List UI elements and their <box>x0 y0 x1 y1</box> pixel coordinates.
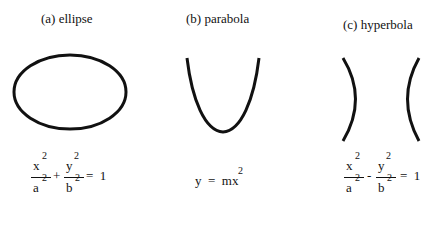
parabola-curve <box>187 58 259 132</box>
ellipse-operator: + <box>53 168 60 184</box>
ellipse-term1-denominator: a <box>33 180 39 196</box>
hyperbola-left-branch <box>343 58 356 141</box>
ellipse-term2-denominator: b <box>66 180 73 196</box>
hyperbola-term1-numerator: x <box>346 158 353 174</box>
ellipse-fraction-bar-2 <box>64 177 84 178</box>
ellipse-term2-numerator: y <box>66 158 73 174</box>
parabola-lhs: y = mx <box>195 173 238 189</box>
hyperbola-term2-den-exponent: 2 <box>387 172 392 183</box>
hyperbola-term2-denominator: b <box>378 180 385 196</box>
hyperbola-term2-num-exponent: 2 <box>386 150 391 161</box>
hyperbola-operator: - <box>367 168 371 184</box>
ellipse-term2-num-exponent: 2 <box>74 150 79 161</box>
ellipse-equation: x 2 a 2 + y 2 b 2 = 1 <box>30 150 150 200</box>
ellipse-rhs: = 1 <box>86 168 106 184</box>
hyperbola-term2-numerator: y <box>378 158 385 174</box>
hyperbola-fraction-bar-2 <box>376 177 396 178</box>
hyperbola-fraction-bar-1 <box>344 177 364 178</box>
ellipse-term1-num-exponent: 2 <box>42 150 47 161</box>
hyperbola-term1-denominator: a <box>346 180 352 196</box>
parabola-equation: y = mx 2 <box>195 165 275 195</box>
hyperbola-term1-den-exponent: 2 <box>355 172 360 183</box>
ellipse-term1-numerator: x <box>33 158 40 174</box>
hyperbola-equation: x 2 a 2 - y 2 b 2 = 1 <box>343 150 442 200</box>
hyperbola-term1-num-exponent: 2 <box>355 150 360 161</box>
hyperbola-rhs: = 1 <box>400 168 420 184</box>
hyperbola-right-branch <box>408 58 420 141</box>
ellipse-fraction-bar-1 <box>31 177 51 178</box>
parabola-exponent: 2 <box>238 165 243 176</box>
ellipse-term1-den-exponent: 2 <box>42 172 47 183</box>
ellipse-curve <box>14 55 126 129</box>
ellipse-term2-den-exponent: 2 <box>75 172 80 183</box>
